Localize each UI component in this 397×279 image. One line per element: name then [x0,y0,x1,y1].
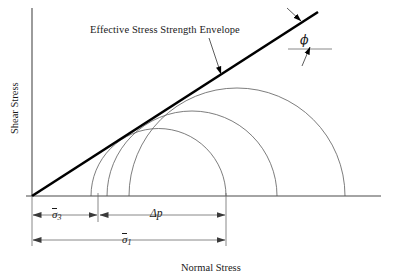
mohr-circle-3 [129,88,345,196]
envelope-callout-leader [209,38,221,74]
sigma1-subscript: 1 [127,238,131,247]
delta-p-dimension-label: Δp [150,208,163,220]
sigma3-symbol: σ [52,209,57,220]
diagram-canvas [0,0,397,279]
sigma1-dimension-label: σ1 [122,234,131,247]
mohr-coulomb-diagram: Effective Stress Strength Envelope Norma… [0,0,397,279]
sigma3-dimension-label: σ3 [52,209,61,222]
axes-group [26,8,381,196]
sigma1-symbol: σ [122,234,127,245]
y-axis-label: Shear Stress [10,76,21,140]
sigma3-subscript: 3 [57,213,61,222]
phi-angle-arrow [302,47,310,66]
x-axis-label: Normal Stress [181,263,241,274]
mohr-circle-1 [91,129,226,197]
mohr-circles-group [91,88,345,196]
envelope-tip-arrow [287,8,301,21]
mohr-circle-2 [107,111,277,196]
envelope-annotation-label: Effective Stress Strength Envelope [90,25,240,36]
friction-angle-label: ϕ [300,34,309,47]
effective-stress-strength-envelope-line [32,12,318,196]
